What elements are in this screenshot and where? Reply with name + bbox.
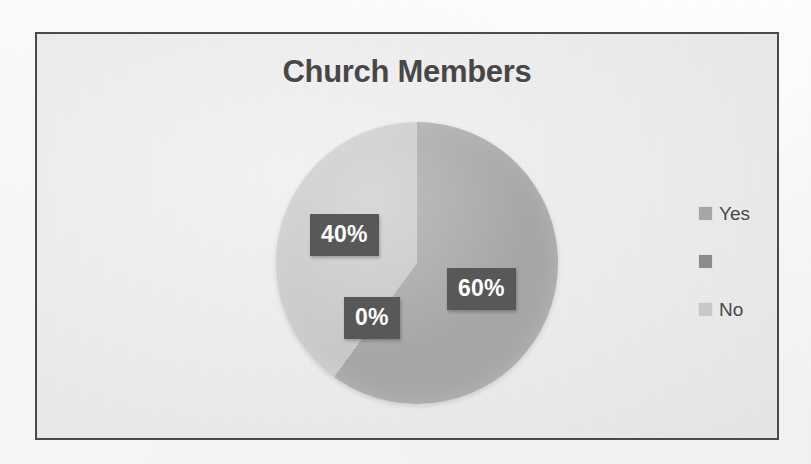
legend-label-no: No bbox=[719, 300, 743, 319]
legend-item-no[interactable]: No bbox=[699, 285, 779, 333]
pie-chart bbox=[276, 122, 558, 404]
legend-item-yes[interactable]: Yes bbox=[699, 189, 779, 237]
chart-legend: Yes No bbox=[699, 189, 779, 333]
data-label-yes: 60% bbox=[447, 268, 516, 310]
legend-label-yes: Yes bbox=[719, 204, 750, 223]
pie-slices bbox=[276, 122, 558, 404]
data-label-no: 40% bbox=[310, 214, 379, 256]
legend-swatch-icon-yes bbox=[699, 207, 712, 220]
chart-frame: Church Members 40% 0% 60% Yes No bbox=[35, 32, 779, 440]
data-label-zero: 0% bbox=[344, 297, 400, 339]
chart-title: Church Members bbox=[37, 54, 777, 90]
legend-item-blank[interactable] bbox=[699, 237, 779, 285]
scanned-page: Church Members 40% 0% 60% Yes No bbox=[0, 0, 811, 464]
legend-swatch-icon-no bbox=[699, 303, 712, 316]
legend-swatch-icon-blank bbox=[699, 255, 712, 268]
